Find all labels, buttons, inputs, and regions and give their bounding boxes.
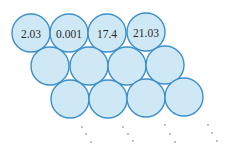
dot <box>211 132 212 133</box>
continuation-ellipsis <box>81 124 217 142</box>
dot <box>164 124 165 125</box>
circle-shape <box>51 80 89 118</box>
circle-shape <box>165 78 203 116</box>
dot <box>216 140 217 141</box>
cell-value: 2.03 <box>21 28 41 40</box>
circle-cell: 2.03 <box>12 14 50 52</box>
circle-cells: 2.030.00117.421.03 <box>12 13 203 118</box>
circle-cell <box>31 47 69 85</box>
circle-shape <box>70 47 108 85</box>
circle-cell: 21.03 <box>127 13 165 51</box>
dot <box>207 124 208 125</box>
ellipsis-dots <box>207 124 217 141</box>
circle-shape <box>127 79 165 117</box>
circle-cell <box>89 80 127 118</box>
dot <box>132 140 133 141</box>
circle-shape <box>31 47 69 85</box>
dot <box>127 133 128 134</box>
cell-value: 17.4 <box>97 28 117 40</box>
ellipsis-dots <box>164 124 175 142</box>
dot <box>85 133 86 134</box>
circle-cell <box>165 78 203 116</box>
circle-cell: 0.001 <box>50 14 88 52</box>
circle-cell: 17.4 <box>88 14 126 52</box>
circle-packing-diagram: 2.030.00117.421.03 <box>0 0 229 153</box>
circle-cell <box>51 80 89 118</box>
ellipsis-dots <box>122 126 133 141</box>
circle-shape <box>89 80 127 118</box>
ellipsis-dots <box>81 126 91 142</box>
dot <box>174 141 175 142</box>
dot <box>122 126 123 127</box>
dot <box>169 133 170 134</box>
circle-cell <box>70 47 108 85</box>
cell-value: 21.03 <box>133 27 159 39</box>
cell-value: 0.001 <box>56 28 82 40</box>
dot <box>90 141 91 142</box>
dot <box>81 126 82 127</box>
circle-cell <box>127 79 165 117</box>
